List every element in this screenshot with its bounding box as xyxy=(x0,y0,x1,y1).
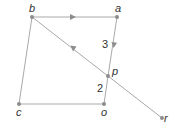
segment-c-b xyxy=(19,17,32,104)
segment-b-r xyxy=(32,17,162,118)
vector-diagram: b a p o c r 3 2 xyxy=(0,0,181,132)
ratio-label-3: 3 xyxy=(102,38,108,50)
label-o: o xyxy=(101,106,107,118)
point-p xyxy=(106,74,110,78)
diagram-svg: b a p o c r 3 2 xyxy=(0,0,181,132)
point-b xyxy=(30,15,34,19)
ratio-label-2: 2 xyxy=(97,82,103,94)
label-b: b xyxy=(29,2,35,14)
point-a xyxy=(115,15,119,19)
label-a: a xyxy=(115,2,121,14)
label-p: p xyxy=(111,65,118,77)
label-r: r xyxy=(164,112,169,124)
label-c: c xyxy=(16,106,22,118)
arrow-right-icon xyxy=(70,14,76,20)
segment-p-o xyxy=(104,76,108,104)
